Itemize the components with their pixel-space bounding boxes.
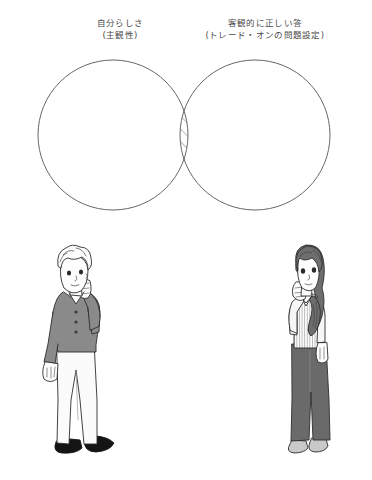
right-circle-label-line1: 客観的に正しい答 [228,18,302,28]
illustration-canvas [0,0,372,480]
male-right-eye [79,269,83,274]
left-circle-label: 自分らしさ (主観性) [60,17,180,41]
male-button-3 [74,330,77,333]
male-button-2 [74,320,77,323]
female-right-hand [316,343,328,363]
left-circle-label-line2: (主観性) [60,29,180,41]
male-left-hand [43,362,58,382]
male-head [60,255,88,293]
female-right-eye [312,267,316,273]
left-circle-label-line1: 自分らしさ [97,18,144,28]
male-button-1 [74,310,77,313]
male-left-eye [67,270,71,275]
female-left-eye [301,268,305,274]
female-left-shoe [288,440,308,453]
right-circle-label: 客観的に正しい答 (トレード・オンの問題設定) [180,17,350,41]
right-circle-label-line2: (トレード・オンの問題設定) [180,29,350,41]
